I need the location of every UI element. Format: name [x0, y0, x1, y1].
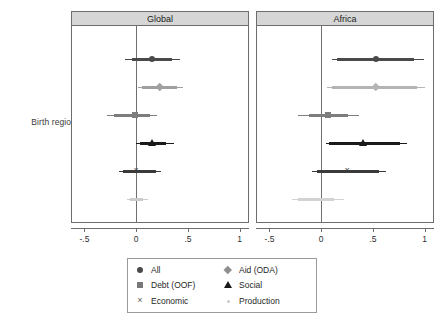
estimate-row	[72, 78, 248, 98]
cross-marker-icon: ×	[132, 166, 140, 175]
confidence-interval-inner	[298, 198, 333, 201]
cross-marker-icon: ×	[343, 166, 351, 175]
small-dot-marker-icon	[320, 198, 323, 201]
x-axis-tick	[240, 228, 241, 232]
legend-label: Debt (OOF)	[151, 280, 195, 290]
coefficient-plot-figure: Birth region Global × -.50.51 Africa × -…	[0, 0, 444, 322]
panel-africa: Africa × -.50.51	[256, 11, 434, 223]
x-axis-tick	[136, 228, 137, 232]
square-marker-icon	[134, 280, 146, 290]
estimate-row: ×	[72, 162, 248, 182]
circle-marker-icon	[137, 267, 143, 273]
estimate-row: ×	[257, 162, 433, 182]
circle-marker-icon	[149, 56, 155, 62]
square-marker-icon	[137, 282, 143, 288]
diamond-marker-icon	[156, 83, 164, 91]
x-axis-tick	[321, 228, 322, 232]
circle-marker-icon	[373, 56, 379, 62]
small-dot-marker-icon	[227, 300, 230, 303]
legend-item-all: All	[134, 262, 222, 278]
diamond-marker-icon	[224, 266, 232, 274]
diamond-marker-icon	[222, 265, 234, 275]
x-axis-tick	[373, 228, 374, 232]
legend: All Aid (ODA) Debt (OOF) Social × Econom…	[127, 258, 317, 313]
x-axis-tick-label: .5	[362, 234, 384, 244]
square-marker-icon	[325, 112, 331, 118]
diamond-marker-icon	[372, 83, 380, 91]
x-axis-tick-label: -.5	[73, 234, 95, 244]
estimate-row	[72, 134, 248, 154]
panel-plot-area-africa: ×	[256, 26, 434, 223]
estimate-row	[72, 50, 248, 70]
small-dot-marker-icon	[222, 296, 234, 306]
legend-item-aid-oda: Aid (ODA)	[222, 262, 310, 278]
panel-plot-area-global: ×	[71, 26, 249, 223]
legend-label: Economic	[151, 296, 188, 306]
legend-label: Aid (ODA)	[239, 265, 278, 275]
x-axis-tick-label: -.5	[258, 234, 280, 244]
triangle-marker-icon	[222, 280, 234, 290]
cross-marker-icon: ×	[134, 296, 146, 306]
legend-item-social: Social	[222, 278, 310, 294]
panel-title-africa: Africa	[256, 11, 434, 26]
x-axis-tick	[269, 228, 270, 232]
triangle-marker-icon	[359, 139, 367, 146]
estimate-row	[72, 190, 248, 210]
x-axis-tick	[84, 228, 85, 232]
x-axis-tick-label: 1	[229, 234, 251, 244]
legend-label: All	[151, 265, 160, 275]
y-axis-label: Birth region	[14, 117, 76, 127]
x-axis-tick-label: 1	[414, 234, 436, 244]
cross-marker-icon: ×	[136, 296, 144, 305]
panel-title-global: Global	[71, 11, 249, 26]
square-marker-icon	[132, 112, 138, 118]
estimate-row	[257, 134, 433, 154]
x-axis-tick	[425, 228, 426, 232]
small-dot-marker-icon	[135, 198, 138, 201]
x-axis-africa: -.50.51	[256, 228, 434, 229]
x-axis-tick-label: 0	[310, 234, 332, 244]
x-axis-tick	[188, 228, 189, 232]
legend-item-economic: × Economic	[134, 293, 222, 309]
legend-label: Social	[239, 280, 262, 290]
estimate-row	[257, 78, 433, 98]
estimate-row	[257, 50, 433, 70]
x-axis-global: -.50.51	[71, 228, 249, 229]
x-axis-tick-label: .5	[177, 234, 199, 244]
panel-global: Global × -.50.51	[71, 11, 249, 223]
legend-item-production: Production	[222, 293, 310, 309]
legend-item-debt-oof: Debt (OOF)	[134, 278, 222, 294]
x-axis-tick-label: 0	[125, 234, 147, 244]
estimate-row	[72, 106, 248, 126]
estimate-row	[257, 190, 433, 210]
circle-marker-icon	[134, 265, 146, 275]
legend-label: Production	[239, 296, 280, 306]
estimate-row	[257, 106, 433, 126]
triangle-marker-icon	[224, 281, 232, 288]
triangle-marker-icon	[148, 139, 156, 146]
